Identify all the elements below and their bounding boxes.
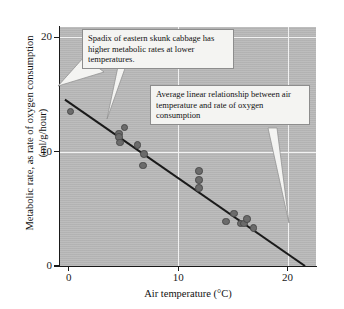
x-axis-label: Air temperature (°C) [60,288,316,299]
callout-2-text: Average linear relationship between air … [156,89,291,120]
y-tick-label-0: 0 [28,260,52,271]
data-point [195,184,203,192]
y-axis-label: Metabolic rate, as rate of oxygen consum… [23,18,49,248]
data-point [230,210,238,218]
data-point [243,215,251,223]
data-point [195,167,203,175]
data-point [67,108,75,116]
data-point [222,218,230,226]
data-point [140,150,148,158]
data-point [250,224,258,232]
data-point [139,162,147,170]
y-tick-10 [54,151,59,152]
y-tick-20 [54,37,59,38]
callout-annotation-1: Spadix of eastern skunk cabbage has high… [82,29,234,69]
y-tick-0 [54,265,59,266]
gridline-x-20 [288,27,289,266]
y-axis-line [59,26,60,267]
x-axis-line [59,266,317,267]
data-point [116,139,124,147]
gridline-y-10 [60,152,316,153]
data-point [195,176,203,184]
x-tick-label-0: 0 [57,272,81,283]
data-point [121,124,129,132]
x-tick-label-10: 10 [166,272,190,283]
callout-1-text: Spadix of eastern skunk cabbage has high… [88,33,214,64]
scatter-plot-figure: 0102001020 Metabolic rate, as rate of ox… [0,0,344,309]
x-tick-label-20: 20 [276,272,300,283]
callout-annotation-2: Average linear relationship between air … [150,85,310,125]
data-point [134,141,142,149]
